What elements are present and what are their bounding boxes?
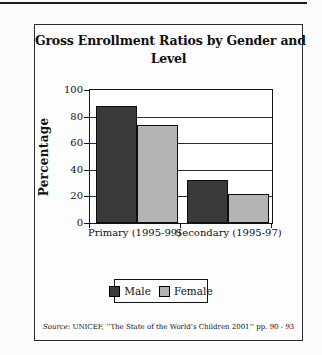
y-tick-mark-80 <box>84 117 89 118</box>
y-tick-label-80: 80 <box>55 111 83 123</box>
legend: MaleFemale <box>114 279 208 303</box>
legend-item-female: Female <box>159 285 213 297</box>
legend-label-male: Male <box>124 285 151 297</box>
y-tick-mark-100 <box>84 90 89 91</box>
legend-swatch-female <box>159 286 170 297</box>
plot-area <box>89 89 273 224</box>
page: Gross Enrollment Ratios by Gender and Le… <box>0 0 322 355</box>
y-tick-label-100: 100 <box>55 84 83 96</box>
chart-title: Gross Enrollment Ratios by Gender and Le… <box>35 32 302 68</box>
chart-title-line-1: Gross Enrollment Ratios by Gender and <box>35 32 302 50</box>
y-tick-label-60: 60 <box>55 137 83 149</box>
bar-male-2 <box>187 180 228 223</box>
y-tick-label-0: 0 <box>55 217 83 229</box>
y-axis-title-text: Percentage <box>37 117 51 196</box>
legend-label-female: Female <box>174 285 213 297</box>
y-tick-label-40: 40 <box>55 164 83 176</box>
top-rule <box>0 2 307 4</box>
bar-female-2 <box>228 194 269 223</box>
source-note: Source: UNICEF, ‘‘The State of the World… <box>43 323 298 331</box>
bar-male-1 <box>96 106 137 223</box>
bar-female-1 <box>137 125 178 223</box>
source-label: Source: <box>43 323 70 331</box>
y-tick-mark-40 <box>84 170 89 171</box>
y-axis-title: Percentage <box>36 89 52 224</box>
source-text: UNICEF, ‘‘The State of the World’s Child… <box>70 323 294 331</box>
x-category-label-2: Secondary (1995-97) <box>176 227 276 238</box>
legend-item-male: Male <box>109 285 151 297</box>
y-tick-label-20: 20 <box>55 190 83 202</box>
x-category-label-1: Primary (1995-99) <box>85 227 185 238</box>
chart-title-line-2: Level <box>35 50 302 68</box>
y-tick-mark-60 <box>84 143 89 144</box>
chart-figure: Gross Enrollment Ratios by Gender and Le… <box>34 24 303 341</box>
y-tick-mark-20 <box>84 196 89 197</box>
legend-swatch-male <box>109 286 120 297</box>
